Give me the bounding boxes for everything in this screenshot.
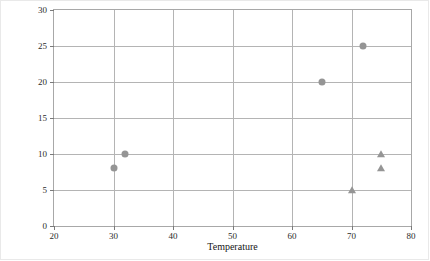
gridline-vertical — [173, 10, 174, 226]
y-tick-label: 30 — [38, 6, 47, 15]
y-axis-title: Wind — [4, 0, 18, 37]
data-point-circle — [318, 79, 325, 86]
data-point-circle — [110, 165, 117, 172]
x-tick-mark — [411, 226, 412, 230]
y-tick-mark — [50, 82, 54, 83]
x-tick-label: 80 — [407, 232, 416, 241]
y-tick-mark — [50, 154, 54, 155]
y-tick-mark — [50, 10, 54, 11]
x-tick-mark — [233, 226, 234, 230]
y-tick-label: 10 — [38, 150, 47, 159]
plot-area: 05101520253020304050607080 — [53, 9, 412, 227]
gridline-vertical — [114, 10, 115, 226]
gridline-vertical — [292, 10, 293, 226]
y-tick-label: 25 — [38, 42, 47, 51]
y-tick-label: 5 — [43, 186, 48, 195]
x-tick-mark — [352, 226, 353, 230]
x-tick-mark — [114, 226, 115, 230]
y-tick-mark — [50, 118, 54, 119]
x-tick-mark — [173, 226, 174, 230]
x-axis-title: Temperature — [53, 241, 412, 252]
gridline-vertical — [233, 10, 234, 226]
data-point-triangle — [348, 186, 356, 193]
x-tick-label: 40 — [169, 232, 178, 241]
y-tick-label: 20 — [38, 78, 47, 87]
gridline-vertical — [352, 10, 353, 226]
y-tick-label: 15 — [38, 114, 47, 123]
x-tick-label: 60 — [288, 232, 297, 241]
scatter-chart: 05101520253020304050607080 Temperature W… — [0, 0, 430, 261]
x-tick-label: 50 — [228, 232, 237, 241]
y-tick-label: 0 — [43, 222, 48, 231]
x-tick-mark — [292, 226, 293, 230]
data-point-circle — [360, 43, 367, 50]
y-tick-mark — [50, 46, 54, 47]
y-tick-mark — [50, 190, 54, 191]
x-tick-label: 70 — [347, 232, 356, 241]
x-tick-label: 20 — [50, 232, 59, 241]
x-tick-label: 30 — [109, 232, 118, 241]
data-point-triangle — [377, 150, 385, 157]
data-point-circle — [122, 151, 129, 158]
x-tick-mark — [54, 226, 55, 230]
data-point-triangle — [377, 165, 385, 172]
